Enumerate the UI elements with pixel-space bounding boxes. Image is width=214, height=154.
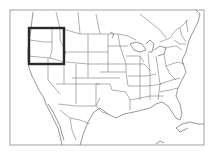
map-frame <box>10 10 204 145</box>
us-locator-map <box>0 0 214 154</box>
